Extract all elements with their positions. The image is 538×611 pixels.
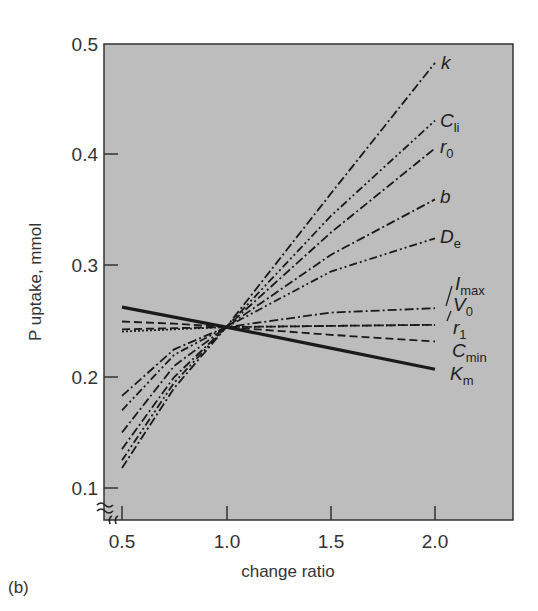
series-label-k: k: [441, 52, 452, 73]
x-axis-title: change ratio: [241, 562, 335, 581]
y-tick-label: 0.5: [72, 34, 98, 55]
y-tick-label: 0.3: [72, 255, 98, 276]
x-tick-label: 0.5: [109, 531, 135, 552]
x-tick-label: 2.0: [422, 531, 448, 552]
x-tick-labels: 0.5 1.0 1.5 2.0: [109, 531, 448, 552]
panel-label: (b): [8, 578, 29, 598]
series-label-b: b: [440, 186, 451, 207]
x-tick-label: 1.0: [214, 531, 240, 552]
y-tick-label: 0.2: [72, 367, 98, 388]
y-tick-labels: 0.5 0.4 0.3 0.2 0.1: [72, 34, 99, 499]
y-axis-title: P uptake, mmol: [26, 223, 45, 341]
x-tick-label: 1.5: [318, 531, 344, 552]
y-tick-label: 0.1: [72, 478, 98, 499]
y-tick-label: 0.4: [72, 144, 99, 165]
p-uptake-chart: 0.5 0.4 0.3 0.2 0.1 0.5 1.0 1.5 2.0 chan…: [0, 0, 538, 611]
